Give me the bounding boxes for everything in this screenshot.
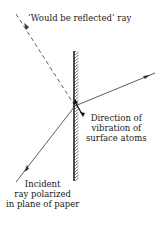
reflecting-surface <box>74 51 79 181</box>
vibration-label-line2: vibration of <box>86 123 147 133</box>
reflected-ray-label: ‘Would be reflected’ ray <box>28 13 131 23</box>
polarized-reflection-diagram: ‘Would be reflected’ ray Direction of vi… <box>0 0 163 225</box>
incident-label-line3: in plane of paper <box>6 199 79 209</box>
incident-label-line2: ray polarized <box>6 189 79 199</box>
vibration-label-line3: surface atoms <box>86 133 147 143</box>
incident-label-line1: Incident <box>6 179 79 189</box>
vibration-label-line1: Direction of <box>86 113 147 123</box>
incident-ray <box>16 106 75 182</box>
reflected-ray <box>16 14 75 106</box>
vibration-label: Direction of vibration of surface atoms <box>86 113 147 143</box>
incident-label: Incident ray polarized in plane of paper <box>6 179 79 209</box>
transmitted-ray <box>75 73 155 106</box>
